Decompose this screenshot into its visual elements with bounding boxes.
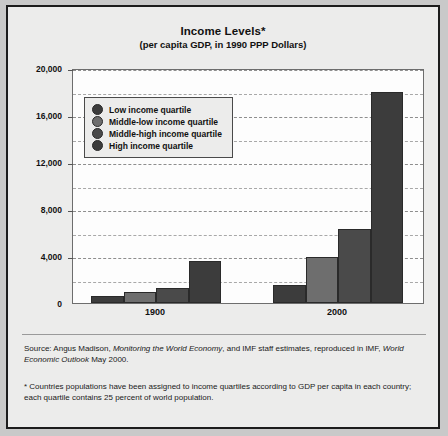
x-axis-tick-label: 2000 xyxy=(327,307,347,317)
divider xyxy=(22,334,426,335)
legend-item: Low income quartile xyxy=(92,104,222,115)
bar xyxy=(189,261,222,303)
chart-legend: Low income quartileMiddle-low income qua… xyxy=(84,97,233,158)
legend-marker-icon xyxy=(92,128,103,139)
bar xyxy=(91,296,124,303)
y-axis-labels: 04,0008,00012,00016,00020,000 xyxy=(22,69,68,304)
bar xyxy=(306,257,339,303)
source-note: Source: Angus Madison, Monitoring the Wo… xyxy=(24,344,428,366)
bar xyxy=(124,292,157,303)
legend-item: High income quartile xyxy=(92,140,222,151)
source-middle: , and IMF staff estimates, reproduced in… xyxy=(222,344,382,353)
chart-plot-area: 04,0008,00012,00016,00020,000 19002000 L… xyxy=(22,69,426,324)
legend-item-label: High income quartile xyxy=(109,141,193,151)
source-title-1: Monitoring the World Economy xyxy=(113,344,222,353)
legend-item: Middle-low income quartile xyxy=(92,116,222,127)
legend-marker-icon xyxy=(92,104,103,115)
bar xyxy=(156,288,189,303)
legend-item: Middle-high income quartile xyxy=(92,128,222,139)
y-axis-tick-label: 20,000 xyxy=(36,64,62,74)
legend-marker-icon xyxy=(92,116,103,127)
y-axis-tick-label: 12,000 xyxy=(36,158,62,168)
page-title: Income Levels* xyxy=(8,25,438,37)
bar xyxy=(371,92,404,304)
chart-card: Income Levels* (per capita GDP, in 1990 … xyxy=(6,5,440,429)
legend-item-label: Low income quartile xyxy=(109,105,191,115)
source-prefix: Source: Angus Madison, xyxy=(24,344,113,353)
legend-item-label: Middle-low income quartile xyxy=(109,117,218,127)
x-axis-labels: 19002000 xyxy=(72,307,424,325)
y-axis-tick-label: 16,000 xyxy=(36,111,62,121)
source-suffix: May 2000. xyxy=(89,355,129,364)
y-axis-tick-label: 0 xyxy=(57,299,62,309)
y-axis-tick-label: 4,000 xyxy=(41,252,62,262)
footnote-note: * Countries populations have been assign… xyxy=(24,382,428,404)
legend-item-label: Middle-high income quartile xyxy=(109,129,222,139)
legend-marker-icon xyxy=(92,140,103,151)
chart-subtitle: (per capita GDP, in 1990 PPP Dollars) xyxy=(8,39,438,50)
y-axis-tick-label: 8,000 xyxy=(41,205,62,215)
bar xyxy=(338,229,371,303)
x-axis-tick-label: 1900 xyxy=(145,307,165,317)
title-block: Income Levels* (per capita GDP, in 1990 … xyxy=(8,7,438,50)
bar xyxy=(273,285,306,303)
